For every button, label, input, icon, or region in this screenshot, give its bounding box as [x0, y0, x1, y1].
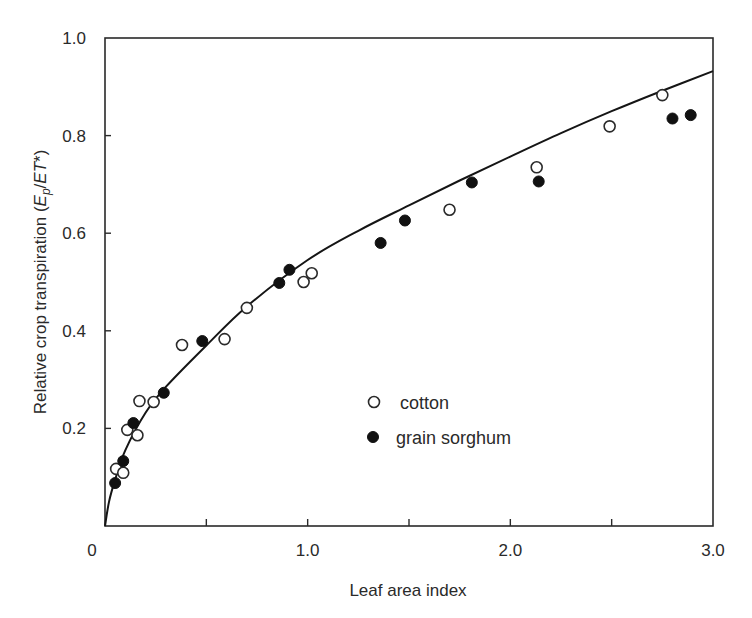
legend-label-grain-sorghum: grain sorghum	[396, 428, 511, 448]
open-data-point	[219, 334, 230, 345]
plot-border	[105, 38, 713, 526]
x-axis-label: Leaf area index	[349, 581, 467, 600]
filled-data-point	[274, 277, 285, 288]
x-tick-label: 2.0	[499, 541, 523, 560]
filled-data-point	[158, 387, 169, 398]
open-data-point	[118, 467, 129, 478]
open-data-point	[444, 204, 455, 215]
open-data-point	[306, 268, 317, 279]
open-data-point	[241, 302, 252, 313]
open-data-point	[148, 397, 159, 408]
fitted-curve-line	[105, 71, 713, 526]
filled-data-point	[197, 336, 208, 347]
filled-data-point	[110, 478, 121, 489]
legend: cotton grain sorghum	[368, 393, 512, 448]
y-tick-label: 1.0	[62, 29, 86, 48]
open-data-point	[177, 339, 188, 350]
filled-data-point	[466, 177, 477, 188]
open-data-point	[657, 90, 668, 101]
y-tick-label: 0.4	[62, 322, 86, 341]
open-data-point	[134, 396, 145, 407]
x-axis-ticks: 1.02.03.0	[206, 519, 724, 560]
open-data-point	[298, 277, 309, 288]
legend-label-cotton: cotton	[400, 393, 449, 413]
filled-data-point	[399, 215, 410, 226]
y-axis-label: Relative crop transpiration (Ep/ET*)	[31, 150, 53, 415]
filled-data-point	[118, 456, 129, 467]
legend-item-grain-sorghum: grain sorghum	[368, 428, 512, 448]
origin-label: 0	[87, 541, 96, 560]
series-cotton	[111, 90, 668, 479]
fitted-curve	[105, 71, 713, 526]
x-tick-label: 1.0	[296, 541, 320, 560]
filled-data-point	[667, 113, 678, 124]
open-data-point	[132, 430, 143, 441]
filled-data-point	[533, 176, 544, 187]
y-axis-ticks: 0.20.40.60.81.0	[62, 29, 111, 438]
x-tick-label: 3.0	[701, 541, 725, 560]
y-tick-label: 0.6	[62, 224, 86, 243]
open-circle-marker-icon	[369, 397, 380, 408]
plot-frame	[105, 38, 713, 526]
scatter-chart: 1.02.03.0 0.20.40.60.81.0 Leaf area inde…	[0, 0, 752, 618]
filled-circle-marker-icon	[368, 432, 379, 443]
open-data-point	[604, 121, 615, 132]
filled-data-point	[128, 418, 139, 429]
y-tick-label: 0.2	[62, 419, 86, 438]
filled-data-point	[685, 110, 696, 121]
filled-data-point	[375, 237, 386, 248]
y-tick-label: 0.8	[62, 127, 86, 146]
legend-item-cotton: cotton	[369, 393, 450, 413]
filled-data-point	[284, 264, 295, 275]
open-data-point	[531, 162, 542, 173]
